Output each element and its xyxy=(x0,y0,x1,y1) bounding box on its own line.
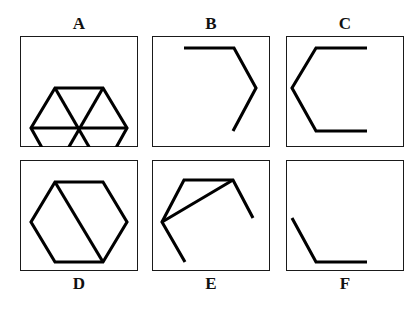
shape-path-a-3 xyxy=(55,88,103,147)
shape-path-a-1 xyxy=(31,88,127,147)
shape-path-a-2 xyxy=(55,88,103,147)
shape-hexagon-with-three-diagonals xyxy=(20,36,138,147)
shape-partial-hexagon-three-segments xyxy=(152,36,270,147)
panel-e: E xyxy=(152,160,270,271)
shape-path-b-1 xyxy=(184,48,256,131)
panel-b: B xyxy=(152,36,270,147)
shape-partial-hexagon-four-segments xyxy=(286,36,404,147)
panel-label-b: B xyxy=(152,15,270,33)
figure-container: ABCDEF xyxy=(0,0,415,309)
panel-a: A xyxy=(20,36,138,147)
shape-path-f-1 xyxy=(292,218,367,262)
panel-f: F xyxy=(286,160,404,271)
panel-label-d: D xyxy=(20,275,138,293)
shape-path-c-1 xyxy=(292,48,367,131)
panel-c: C xyxy=(286,36,404,147)
shape-hexagon-with-one-diagonal xyxy=(20,160,138,271)
shape-rotated-partial-hexagon-with-diagonal xyxy=(152,160,270,271)
panel-d: D xyxy=(20,160,138,271)
panel-label-f: F xyxy=(286,275,404,293)
shape-path-e-1 xyxy=(162,180,253,262)
panel-label-e: E xyxy=(152,275,270,293)
panel-label-a: A xyxy=(20,15,138,33)
panel-label-c: C xyxy=(286,15,404,33)
shape-path-d-2 xyxy=(55,182,103,262)
shape-partial-hexagon-two-segments xyxy=(286,160,404,271)
